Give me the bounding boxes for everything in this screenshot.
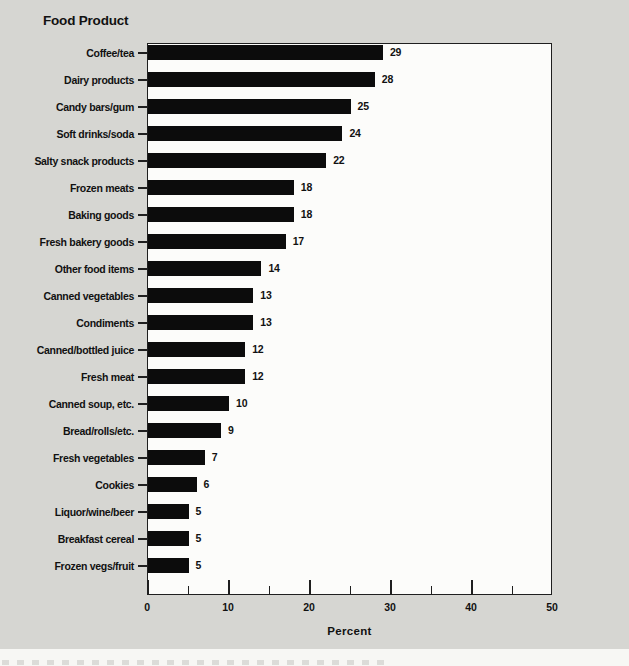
x-axis-minor-tick — [512, 586, 514, 594]
category-tick — [138, 241, 147, 243]
bar-category-label: Breakfast cereal — [0, 533, 134, 546]
x-axis-major-tick — [147, 580, 149, 594]
category-tick — [138, 106, 147, 108]
x-axis-tick-label: 20 — [297, 601, 321, 613]
category-tick — [138, 376, 147, 378]
bar-value-label: 6 — [204, 478, 210, 491]
bar — [148, 153, 326, 168]
category-tick — [138, 511, 147, 513]
bar-category-label: Condiments — [0, 317, 134, 330]
x-axis-tick-label: 40 — [459, 601, 483, 613]
bar-value-label: 7 — [212, 451, 218, 464]
bar-value-label: 5 — [196, 559, 202, 572]
bar — [148, 126, 342, 141]
bar-category-label: Coffee/tea — [0, 47, 134, 60]
plot-area: 2928252422181817141313121210976555 — [147, 43, 552, 595]
bar — [148, 288, 253, 303]
bar — [148, 45, 383, 60]
bar-category-label: Frozen vegs/fruit — [0, 560, 134, 573]
bar-value-label: 22 — [333, 154, 344, 167]
category-tick — [138, 403, 147, 405]
bar-value-label: 13 — [260, 289, 271, 302]
category-tick — [138, 214, 147, 216]
category-tick — [138, 430, 147, 432]
x-axis-major-tick — [551, 580, 553, 594]
chart-title: Food Product — [43, 13, 128, 28]
bar-category-label: Fresh meat — [0, 371, 134, 384]
bar-category-label: Canned vegetables — [0, 290, 134, 303]
bar — [148, 99, 351, 114]
bar-value-label: 10 — [236, 397, 247, 410]
x-axis-tick-label: 50 — [540, 601, 564, 613]
bar-category-label: Other food items — [0, 263, 134, 276]
bar — [148, 207, 294, 222]
bar — [148, 234, 286, 249]
category-tick — [138, 457, 147, 459]
bar — [148, 315, 253, 330]
bar-category-label: Dairy products — [0, 74, 134, 87]
bar-value-label: 24 — [349, 127, 360, 140]
x-axis-minor-tick — [431, 586, 433, 594]
bar — [148, 558, 189, 573]
bar-category-label: Fresh vegetables — [0, 452, 134, 465]
bar-category-label: Frozen meats — [0, 182, 134, 195]
bar-category-label: Soft drinks/soda — [0, 128, 134, 141]
x-axis-tick-label: 0 — [135, 601, 159, 613]
category-tick — [138, 484, 147, 486]
x-axis-tick-label: 30 — [378, 601, 402, 613]
bar-value-label: 25 — [358, 100, 369, 113]
bar — [148, 423, 221, 438]
bar — [148, 531, 189, 546]
category-tick — [138, 160, 147, 162]
bar-category-label: Candy bars/gum — [0, 101, 134, 114]
x-axis-minor-tick — [350, 586, 352, 594]
x-axis-major-tick — [228, 580, 230, 594]
category-tick — [138, 565, 147, 567]
x-axis-major-tick — [309, 580, 311, 594]
bar-value-label: 17 — [293, 235, 304, 248]
category-tick — [138, 52, 147, 54]
bar — [148, 261, 261, 276]
category-tick — [138, 295, 147, 297]
bar — [148, 504, 189, 519]
bar-category-label: Bread/rolls/etc. — [0, 425, 134, 438]
category-tick — [138, 322, 147, 324]
bar-category-label: Salty snack products — [0, 155, 134, 168]
category-tick — [138, 133, 147, 135]
bar — [148, 342, 245, 357]
bar-value-label: 18 — [301, 181, 312, 194]
bar-category-label: Canned soup, etc. — [0, 398, 134, 411]
category-tick — [138, 268, 147, 270]
bar — [148, 477, 197, 492]
x-axis-minor-tick — [188, 586, 190, 594]
bar-value-label: 13 — [260, 316, 271, 329]
bar-value-label: 29 — [390, 46, 401, 59]
x-axis-tick-label: 10 — [216, 601, 240, 613]
bar — [148, 450, 205, 465]
bar-value-label: 14 — [268, 262, 279, 275]
bar-value-label: 18 — [301, 208, 312, 221]
bar-value-label: 12 — [252, 343, 263, 356]
category-tick — [138, 187, 147, 189]
bar — [148, 369, 245, 384]
bar-category-label: Fresh bakery goods — [0, 236, 134, 249]
x-axis-label: Percent — [147, 625, 552, 637]
page-bottom-strip — [0, 649, 629, 666]
bar-value-label: 12 — [252, 370, 263, 383]
bar — [148, 72, 375, 87]
bar-value-label: 5 — [196, 532, 202, 545]
bar-value-label: 9 — [228, 424, 234, 437]
bar-category-label: Cookies — [0, 479, 134, 492]
bar-category-label: Liquor/wine/beer — [0, 506, 134, 519]
bar — [148, 180, 294, 195]
category-tick — [138, 349, 147, 351]
chart-canvas: Food Product 292825242218181714131312121… — [0, 0, 629, 666]
x-axis-minor-tick — [269, 586, 271, 594]
clipped-caption-fragment — [2, 660, 390, 665]
category-tick — [138, 79, 147, 81]
category-tick — [138, 538, 147, 540]
bar-value-label: 28 — [382, 73, 393, 86]
bar-value-label: 5 — [196, 505, 202, 518]
bar-category-label: Canned/bottled juice — [0, 344, 134, 357]
bar-category-label: Baking goods — [0, 209, 134, 222]
